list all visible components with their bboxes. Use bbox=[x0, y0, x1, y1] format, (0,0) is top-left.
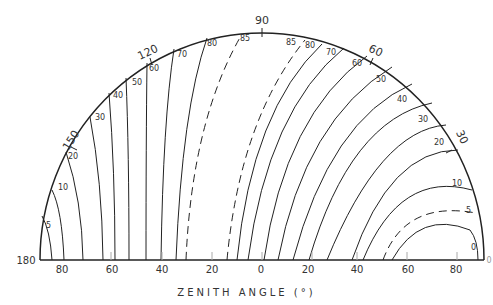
right-end-0: 0 bbox=[486, 256, 491, 265]
tick-20-left: 20 bbox=[206, 264, 219, 275]
svg-text:5: 5 bbox=[46, 221, 51, 230]
svg-text:85: 85 bbox=[240, 34, 250, 43]
tick-80-left: 80 bbox=[56, 264, 69, 275]
tick-40-left: 40 bbox=[156, 264, 169, 275]
tick-40-right: 40 bbox=[351, 264, 364, 275]
svg-text:70: 70 bbox=[177, 50, 187, 59]
svg-text:10: 10 bbox=[58, 183, 68, 192]
svg-text:5: 5 bbox=[466, 206, 471, 215]
svg-text:40: 40 bbox=[113, 91, 123, 100]
rim-30: 30 bbox=[453, 128, 471, 146]
tick-20-right: 20 bbox=[302, 264, 315, 275]
svg-text:30: 30 bbox=[418, 115, 428, 124]
tick-60-left: 60 bbox=[106, 264, 119, 275]
svg-text:40: 40 bbox=[397, 95, 407, 104]
outer-rim bbox=[40, 33, 484, 260]
tick-60-right: 60 bbox=[402, 264, 415, 275]
svg-text:85: 85 bbox=[286, 38, 296, 47]
left-end-180: 180 bbox=[16, 255, 35, 266]
svg-text:30: 30 bbox=[95, 113, 105, 122]
svg-text:20: 20 bbox=[434, 138, 444, 147]
svg-text:60: 60 bbox=[149, 64, 159, 73]
svg-text:60: 60 bbox=[352, 59, 362, 68]
x-axis-label: ZENITH ANGLE (°) bbox=[0, 287, 493, 298]
tick-80-right: 80 bbox=[450, 264, 463, 275]
svg-text:50: 50 bbox=[376, 75, 386, 84]
svg-text:10: 10 bbox=[452, 179, 462, 188]
rim-90: 90 bbox=[255, 14, 269, 27]
zenith-angle-diagram: 80 60 40 20 0 20 40 60 80 180 0 90 120 1… bbox=[0, 0, 493, 305]
rim-60: 60 bbox=[367, 42, 385, 60]
svg-text:20: 20 bbox=[68, 152, 78, 161]
svg-text:70: 70 bbox=[326, 48, 336, 57]
tick-0: 0 bbox=[258, 264, 264, 275]
svg-text:0: 0 bbox=[471, 243, 476, 252]
svg-text:80: 80 bbox=[305, 41, 315, 50]
svg-text:80: 80 bbox=[207, 39, 217, 48]
svg-text:50: 50 bbox=[132, 78, 142, 87]
